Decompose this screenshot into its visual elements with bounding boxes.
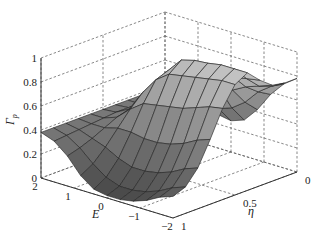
z-axis-label: Γp bbox=[3, 114, 19, 126]
tick-label: 0.8 bbox=[23, 76, 37, 88]
tick-label: 1 bbox=[32, 52, 38, 64]
eta-axis-label: η bbox=[248, 204, 254, 218]
surface-plot: 00.20.40.60.81210−1−210.50 Γp E η bbox=[0, 0, 311, 237]
tick-label: 0.6 bbox=[23, 100, 37, 112]
tick-label: 0.2 bbox=[23, 148, 37, 160]
tick-label: −1 bbox=[128, 210, 140, 222]
tick-label: 2 bbox=[32, 180, 38, 192]
tick-label: −2 bbox=[161, 220, 173, 232]
tick-label: 1 bbox=[181, 220, 187, 232]
tick-label: 1 bbox=[65, 190, 71, 202]
e-axis-label: E bbox=[91, 207, 100, 221]
tick-label: 0 bbox=[305, 174, 311, 186]
tick-label: 0.4 bbox=[23, 124, 37, 136]
surface-mesh bbox=[41, 60, 297, 201]
